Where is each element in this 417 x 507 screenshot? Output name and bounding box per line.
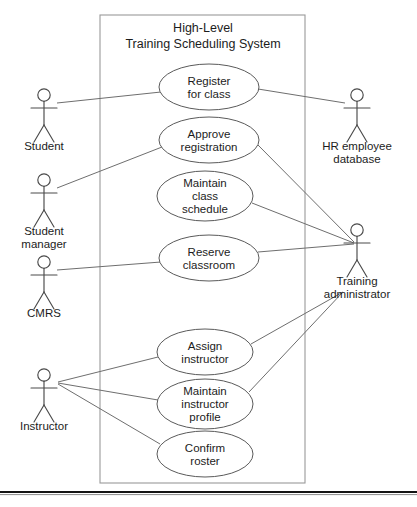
use-case-label-line: instructor [181, 398, 228, 410]
system-title-line-1: High-Level [173, 21, 233, 35]
use-case-label-line: profile [189, 411, 220, 423]
footer-rule [0, 492, 417, 495]
actor-label-line: CMRS [27, 307, 61, 319]
association-training-administrator--maintain-class-schedule [252, 203, 354, 243]
association-instructor--assign-instructor [58, 357, 158, 382]
use-case-approve-registration[interactable]: Approveregistration [159, 117, 259, 163]
system-title-line-2: Training Scheduling System [125, 37, 280, 51]
actor-label-line: Student [24, 140, 64, 152]
association-training-administrator--maintain-instructor-profile [249, 293, 342, 392]
use-case-label-line: class [192, 190, 218, 202]
actor-hr-employee-database[interactable]: HR employeedatabase [322, 89, 392, 165]
use-case-confirm-roster[interactable]: Confirmroster [157, 431, 253, 477]
use-case-label-line: Assign [188, 340, 223, 352]
actor-head-icon [38, 256, 50, 268]
use-case-label-line: Confirm [185, 442, 225, 454]
actor-label-line: administrator [324, 288, 391, 300]
use-case-label-line: Approve [188, 128, 231, 140]
actor-head-icon [38, 369, 50, 381]
use-case-label-line: classroom [183, 259, 235, 271]
diagram-canvas: High-Level Training Scheduling System Re… [0, 0, 417, 507]
use-case-label-line: Maintain [183, 385, 226, 397]
association-training-administrator--reserve-classroom [258, 244, 354, 252]
association-cmrs--reserve-classroom [57, 262, 161, 270]
use-case-reserve-classroom[interactable]: Reserveclassroom [159, 235, 259, 281]
association-student-manager--approve-registration [57, 147, 162, 188]
use-case-maintain-class-schedule[interactable]: Maintainclassschedule [157, 171, 253, 221]
actor-label-line: manager [21, 238, 67, 250]
use-case-label-line: Register [188, 75, 231, 87]
use-case-nodes: Registerfor classApproveregistrationMain… [157, 64, 259, 477]
use-case-register-for-class[interactable]: Registerfor class [159, 64, 259, 110]
actor-instructor[interactable]: Instructor [20, 369, 68, 432]
association-instructor--confirm-roster [58, 384, 160, 444]
use-case-label-line: registration [181, 141, 238, 153]
actor-head-icon [38, 174, 50, 186]
actor-label-line: Student [24, 225, 64, 237]
actor-head-icon [351, 224, 363, 236]
actor-head-icon [38, 89, 50, 101]
actor-label-line: Training [336, 275, 377, 287]
use-case-maintain-instructor-profile[interactable]: Maintaininstructorprofile [157, 379, 253, 429]
use-case-label-line: roster [190, 455, 220, 467]
actor-student-manager[interactable]: Studentmanager [21, 174, 67, 250]
use-case-label-line: Maintain [183, 177, 226, 189]
use-case-label-line: schedule [182, 203, 228, 215]
actor-label-line: database [333, 153, 380, 165]
use-case-label-line: Reserve [188, 246, 231, 258]
association-hr-employee-database--register-for-class [258, 89, 345, 103]
use-case-label-line: for class [188, 88, 231, 100]
use-case-assign-instructor[interactable]: Assigninstructor [157, 329, 253, 375]
association-instructor--maintain-instructor-profile [58, 383, 158, 400]
actor-student[interactable]: Student [24, 89, 64, 152]
actor-head-icon [351, 89, 363, 101]
use-case-label-line: instructor [181, 353, 228, 365]
association-student--register-for-class [57, 92, 161, 103]
actor-label-line: HR employee [322, 140, 392, 152]
actor-cmrs[interactable]: CMRS [27, 256, 61, 319]
use-case-diagram: High-Level Training Scheduling System Re… [0, 0, 417, 507]
actor-label-line: Instructor [20, 420, 68, 432]
